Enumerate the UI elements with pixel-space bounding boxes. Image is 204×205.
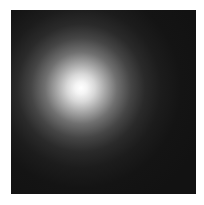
dark-image-frame <box>11 10 196 194</box>
light-glow-spot <box>11 10 196 194</box>
